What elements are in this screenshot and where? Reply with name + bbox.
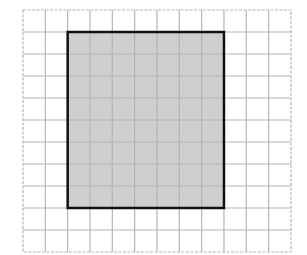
grid-diagram: [0, 0, 307, 255]
grid-lines: [23, 10, 291, 252]
